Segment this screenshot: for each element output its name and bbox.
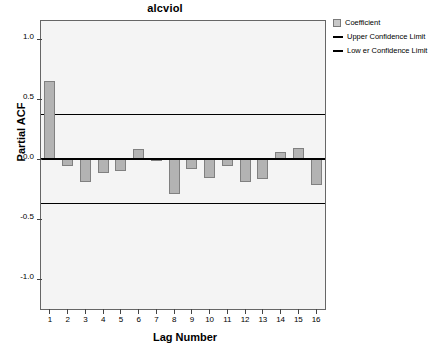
x-tick-label: 1 — [42, 315, 58, 324]
bar-lag-4 — [98, 159, 109, 173]
x-tick-mark — [280, 309, 281, 314]
chart-legend: CoefficientUpper Confidence LimitLow er … — [333, 16, 428, 58]
upper-confidence-limit — [41, 114, 325, 116]
x-tick-label: 2 — [60, 315, 76, 324]
y-tick-label: -1.0 — [20, 272, 34, 281]
lower-confidence-limit — [41, 203, 325, 205]
bar-lag-2 — [62, 159, 73, 166]
x-tick-mark — [209, 309, 210, 314]
x-tick-mark — [49, 309, 50, 314]
bar-lag-1 — [44, 81, 55, 159]
x-tick-mark — [191, 309, 192, 314]
x-tick-mark — [120, 309, 121, 314]
x-tick-label: 16 — [308, 315, 324, 324]
y-tick-label: 1.0 — [23, 32, 34, 41]
y-tick-label: 0.5 — [23, 92, 34, 101]
x-tick-label: 6 — [131, 315, 147, 324]
x-tick-label: 14 — [273, 315, 289, 324]
y-tick-mark — [37, 219, 42, 220]
plot-area — [41, 21, 325, 309]
x-tick-mark — [316, 309, 317, 314]
y-tick-mark — [37, 39, 42, 40]
x-tick-mark — [262, 309, 263, 314]
x-tick-label: 3 — [77, 315, 93, 324]
zero-line — [41, 158, 325, 160]
legend-item-2[interactable]: Low er Confidence Limit — [333, 44, 428, 57]
x-tick-label: 15 — [290, 315, 306, 324]
x-tick-label: 9 — [184, 315, 200, 324]
x-tick-label: 13 — [255, 315, 271, 324]
y-tick-mark — [37, 99, 42, 100]
bar-lag-9 — [186, 159, 197, 169]
x-tick-mark — [156, 309, 157, 314]
plot-frame: 1.00.50.0-0.5-1.0 1234567891011121314151… — [40, 20, 326, 310]
bar-lag-16 — [311, 159, 322, 185]
legend-item-label: Low er Confidence Limit — [347, 47, 427, 55]
legend-item-0[interactable]: Coefficient — [333, 16, 428, 29]
y-tick-mark — [37, 279, 42, 280]
legend-item-label: Upper Confidence Limit — [347, 33, 425, 41]
bar-lag-11 — [222, 159, 233, 166]
x-tick-label: 11 — [219, 315, 235, 324]
bar-lag-10 — [204, 159, 215, 178]
bar-lag-5 — [115, 159, 126, 171]
x-tick-mark — [67, 309, 68, 314]
x-tick-mark — [138, 309, 139, 314]
chart-title: alcviol — [0, 2, 330, 14]
x-tick-label: 12 — [237, 315, 253, 324]
x-tick-mark — [245, 309, 246, 314]
legend-item-label: Coefficient — [345, 19, 380, 27]
bar-lag-13 — [257, 159, 268, 179]
x-tick-label: 4 — [95, 315, 111, 324]
x-tick-label: 8 — [166, 315, 182, 324]
x-tick-mark — [298, 309, 299, 314]
legend-line-icon — [333, 36, 343, 38]
bar-lag-12 — [240, 159, 251, 182]
legend-line-icon — [333, 50, 343, 52]
legend-box-icon — [333, 19, 341, 27]
x-tick-label: 5 — [113, 315, 129, 324]
x-tick-label: 7 — [148, 315, 164, 324]
y-tick-label: 0.0 — [23, 152, 34, 161]
bar-lag-3 — [80, 159, 91, 182]
bar-lag-8 — [169, 159, 180, 194]
y-tick-label: -0.5 — [20, 212, 34, 221]
y-tick-mark — [37, 159, 42, 160]
x-axis-label: Lag Number — [40, 331, 330, 343]
x-tick-label: 10 — [202, 315, 218, 324]
acf-chart: alcviol Partial ACF 1.00.50.0-0.5-1.0 12… — [0, 0, 428, 355]
x-tick-mark — [227, 309, 228, 314]
x-tick-mark — [103, 309, 104, 314]
legend-item-1[interactable]: Upper Confidence Limit — [333, 30, 428, 43]
x-tick-mark — [85, 309, 86, 314]
x-tick-mark — [174, 309, 175, 314]
